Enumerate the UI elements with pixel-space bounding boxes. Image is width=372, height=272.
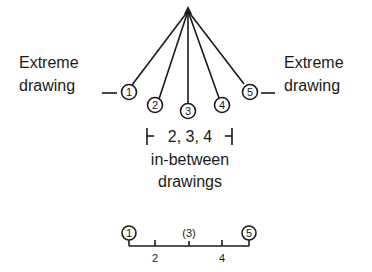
right-extreme-label: Extreme drawing [284,53,344,95]
fan-line-4 [188,11,219,98]
timeline-key-label-5: 5 [246,227,252,239]
left-extreme-label: Extreme drawing [19,53,79,95]
fan-label-4: 4 [219,99,225,111]
left-extreme-line1: Extreme [19,53,79,72]
inbetween-line2: drawings [130,172,250,191]
apex-point [184,6,192,14]
inbetween-label: in-between drawings [130,150,250,191]
right-extreme-line2: drawing [284,76,344,95]
timeline-key-label-1: 1 [126,227,132,239]
timeline-middle-label: (3) [182,227,195,239]
timeline-tick-label-4: 4 [219,252,225,264]
inbetween-line1: in-between [130,150,250,169]
left-extreme-line2: drawing [19,76,79,95]
fan-line-2 [159,11,188,99]
fan-line-1 [132,11,188,85]
fan-line-5 [188,11,244,84]
fan-label-5: 5 [247,86,253,98]
inbetween-range: 2, 3, 4 [159,127,221,146]
right-extreme-line1: Extreme [284,53,344,72]
fan-label-1: 1 [126,86,132,98]
fan-label-2: 2 [152,99,158,111]
fan-label-3: 3 [185,105,191,117]
timeline-tick-label-2: 2 [152,252,158,264]
